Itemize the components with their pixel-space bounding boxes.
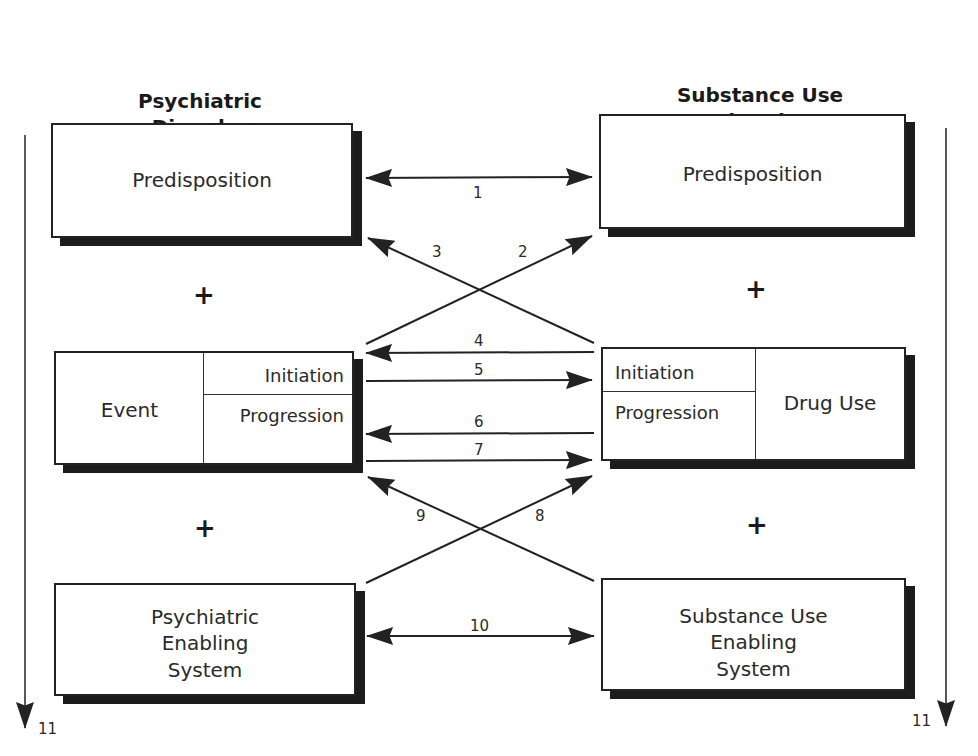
psychiatric-predisposition-label: Predisposition: [53, 166, 351, 194]
substance-enabling-line2: Enabling: [603, 628, 904, 656]
substance-drug-use-box: Initiation Progression Drug Use: [601, 347, 906, 461]
psychiatric-enabling-line2: Enabling: [56, 629, 354, 657]
arrow-1-label: 1: [473, 184, 483, 202]
arrow-7: [366, 460, 592, 461]
substance-enabling-system-box: Substance Use Enabling System: [601, 578, 906, 691]
arrow-11-left-label: 11: [38, 720, 57, 738]
substance-progression-label: Progression: [615, 402, 719, 423]
arrow-3-label: 3: [432, 243, 442, 261]
event-cell: Event: [56, 353, 204, 463]
arrow-6: [366, 433, 594, 434]
substance-progression-cell: Progression: [603, 392, 756, 459]
arrow-4: [366, 352, 594, 353]
psychiatric-initiation-cell: Initiation: [204, 353, 352, 395]
arrow-4-label: 4: [474, 332, 484, 350]
psychiatric-enabling-line1: Psychiatric: [56, 603, 354, 631]
psychiatric-event-box: Event Initiation Progression: [54, 351, 354, 465]
substance-predisposition-box: Predisposition: [599, 114, 906, 229]
arrow-5: [366, 380, 592, 381]
substance-enabling-line1: Substance Use: [603, 602, 904, 630]
psychiatric-enabling-line3: System: [56, 656, 354, 684]
plus-right-bottom: +: [746, 510, 768, 540]
psychiatric-progression-cell: Progression: [204, 395, 352, 463]
psychiatric-enabling-system-box: Psychiatric Enabling System: [54, 583, 356, 696]
arrow-9-label: 9: [416, 507, 426, 525]
plus-right-top: +: [745, 274, 767, 304]
arrow-2-label: 2: [518, 243, 528, 261]
psychiatric-initiation-label: Initiation: [265, 365, 344, 386]
arrow-10-label: 10: [470, 617, 489, 635]
arrow-8-label: 8: [535, 507, 545, 525]
drug-use-label: Drug Use: [756, 391, 904, 415]
arrow-6-label: 6: [474, 413, 484, 431]
psychiatric-predisposition-box: Predisposition: [51, 123, 353, 238]
substance-predisposition-label: Predisposition: [601, 160, 904, 188]
plus-left-top: +: [193, 280, 215, 310]
substance-initiation-label: Initiation: [615, 362, 694, 383]
plus-left-bottom: +: [194, 513, 216, 543]
psychiatric-progression-label: Progression: [240, 405, 344, 426]
arrow-11-right-label: 11: [912, 712, 931, 730]
arrow-1: [366, 177, 592, 178]
arrow-7-label: 7: [474, 441, 484, 459]
substance-initiation-cell: Initiation: [603, 349, 756, 392]
drug-use-cell: Drug Use: [756, 349, 904, 459]
event-label: Event: [56, 398, 203, 422]
substance-enabling-line3: System: [603, 655, 904, 683]
arrow-5-label: 5: [474, 361, 484, 379]
